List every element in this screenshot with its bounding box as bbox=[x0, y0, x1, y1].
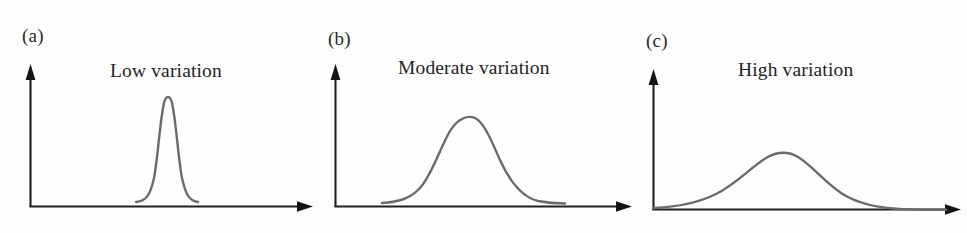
horizontal-arrow-axis bbox=[30, 201, 314, 212]
vertical-arrow-axis bbox=[649, 69, 659, 210]
vertical-arrow-axis bbox=[331, 64, 341, 207]
panel-moderate-variation: (b) Moderate variation bbox=[320, 0, 640, 233]
panel-high-variation: (c) High variation bbox=[640, 0, 967, 233]
bell-curve-narrow bbox=[136, 97, 198, 202]
panel-low-variation: (a) Low variation bbox=[0, 0, 320, 233]
plot-area-low-variation bbox=[0, 0, 320, 233]
bell-curve-medium bbox=[382, 117, 565, 204]
plot-area-moderate-variation bbox=[320, 0, 640, 233]
vertical-arrow-axis bbox=[26, 64, 36, 207]
horizontal-arrow-axis bbox=[335, 201, 633, 212]
variation-figure: (a) Low variation (b) Moderate variation bbox=[0, 0, 967, 233]
plot-area-high-variation bbox=[640, 0, 967, 233]
bell-curve-wide bbox=[654, 153, 946, 210]
